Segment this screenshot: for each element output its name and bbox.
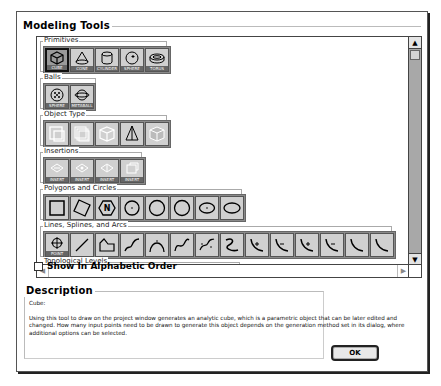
tool-line[interactable] [70,233,94,257]
tool-polyline[interactable] [95,233,119,257]
tool-rectangle[interactable] [45,196,69,220]
wire-cube-icon [98,125,116,143]
description-group: Description Cube: Using this tool to dra… [24,291,324,359]
tool-sphere[interactable]: SPHERE [120,48,144,72]
vertical-scrollbar[interactable]: ▲ ▼ [408,37,421,265]
tool-arc-5[interactable] [345,233,369,257]
category-title: Lines, Splines, and Arcs [43,221,128,230]
category-polygons-circles: Polygons and Circles N [40,189,242,220]
spline-icon [123,236,141,254]
spline-points-icon [198,236,216,254]
tool-cube[interactable]: CUBE [45,48,69,72]
category-lines-splines-arcs: Lines, Splines, and Arcs POINT [40,226,392,257]
tool-label: CYLINDER [96,66,118,71]
torus-icon [149,51,165,65]
insert-icon [99,162,115,176]
insert-icon [49,162,65,176]
tool-circle-center[interactable] [120,196,144,220]
ellipse-center-icon [198,199,216,217]
modeling-tools-dialog: Modeling Tools Primitives CUBE CONE [16,11,428,372]
tool-cone[interactable]: CONE [70,48,94,72]
tool-strip [43,120,171,148]
svg-text:N: N [104,204,111,213]
description-text: Using this tool to draw on the project w… [29,315,419,338]
show-alphabetic-label: Show In Alphabetic Order [47,261,177,271]
tool-arc-3[interactable] [295,233,319,257]
freehand-icon [223,236,241,254]
tool-spline-4[interactable] [195,233,219,257]
tool-metaball[interactable]: METABALL [70,85,94,109]
wire-pyramid-icon [123,125,141,143]
nested-squares-icon [48,125,66,143]
circle-center-icon [123,199,141,217]
tool-spline-1[interactable] [120,233,144,257]
tool-label: SPHERE [46,103,68,108]
point-crosshair-icon [49,236,65,250]
scroll-thumb[interactable] [410,50,420,60]
tool-label: INSERT [71,177,93,182]
tool-torus[interactable]: TORUS [145,48,169,72]
insert-icon [124,162,140,176]
spline-icon [173,236,191,254]
rectangle-icon [48,199,66,217]
tool-rotated-rectangle[interactable] [70,196,94,220]
tool-spline-2[interactable] [145,233,169,257]
tool-object-type-1[interactable] [45,122,69,146]
arc-icon [348,236,366,254]
tool-ellipse[interactable] [220,196,244,220]
tool-circle-3pt[interactable] [170,196,194,220]
tool-arc-6[interactable] [370,233,394,257]
tool-insertion-3[interactable]: INSERT [95,159,119,183]
category-title: Balls [43,73,62,82]
tool-geosphere[interactable]: SPHERE [45,85,69,109]
show-alphabetic-option[interactable]: Show In Alphabetic Order [34,261,177,271]
tool-label: INSERT [96,177,118,182]
tool-strip: SPHERE METABALL [43,83,96,111]
cone-icon [74,51,90,65]
tool-arc-1[interactable] [245,233,269,257]
tools-list-content: Primitives CUBE CONE CYLINDER [37,37,409,265]
show-alphabetic-checkbox[interactable] [34,262,43,271]
tools-list[interactable]: Primitives CUBE CONE CYLINDER [36,36,422,278]
hexagon-n-icon: N [98,199,116,217]
tool-label: CUBE [47,65,67,70]
spline-arch-icon [148,236,166,254]
tool-n-gon[interactable]: N [95,196,119,220]
tool-point[interactable]: POINT [45,233,69,257]
tool-cylinder[interactable]: CYLINDER [95,48,119,72]
tool-label: INSERT [121,177,143,182]
cube-icon [49,51,65,65]
tool-insertion-1[interactable]: INSERT [45,159,69,183]
tool-label: SPHERE [121,66,143,71]
stacked-squares-icon [73,125,91,143]
arc-icon [248,236,266,254]
description-title: Description [24,285,95,297]
tool-label: METABALL [71,103,93,108]
tool-strip: N [43,194,246,222]
polyline-icon [98,236,116,254]
tool-insertion-2[interactable]: INSERT [70,159,94,183]
tool-insertion-4[interactable]: INSERT [120,159,144,183]
description-body: Cube: Using this tool to draw on the pro… [29,300,419,344]
tool-label: POINT [46,251,68,256]
tool-circle-2pt[interactable] [145,196,169,220]
solid-cube-icon [148,125,166,143]
category-title: Object Type [43,110,86,119]
tool-freehand[interactable] [220,233,244,257]
tool-arc-4[interactable] [320,233,344,257]
tool-object-type-4[interactable] [120,122,144,146]
cylinder-icon [99,51,115,65]
ok-button[interactable]: OK [331,345,379,361]
tool-object-type-3[interactable] [95,122,119,146]
tool-spline-3[interactable] [170,233,194,257]
tool-object-type-2[interactable] [70,122,94,146]
scroll-up-arrow-icon[interactable]: ▲ [409,37,421,49]
category-insertions: Insertions INSERT INSERT INSERT INSERT [40,152,142,183]
metaball-icon [74,88,90,102]
category-title: Insertions [43,147,79,156]
insert-icon [74,162,90,176]
tool-object-type-5[interactable] [145,122,169,146]
tool-arc-2[interactable] [270,233,294,257]
tool-ellipse-center[interactable] [195,196,219,220]
scroll-corner [408,264,421,277]
